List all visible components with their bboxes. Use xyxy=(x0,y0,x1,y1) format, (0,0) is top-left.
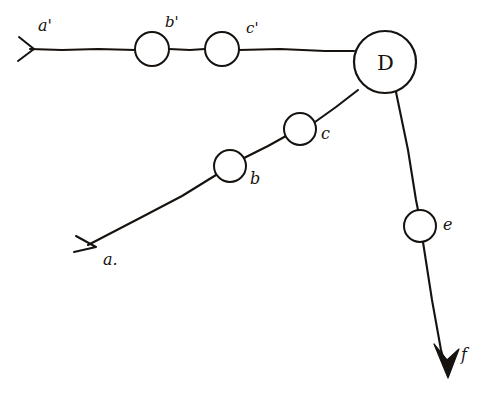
diagram-canvas: a' b' c' D a. b c e f xyxy=(0,0,501,400)
edge-a-to-b xyxy=(88,175,216,245)
node-c[interactable] xyxy=(284,113,316,145)
node-c-prime[interactable] xyxy=(205,32,239,66)
edge-c-to-d xyxy=(315,90,358,122)
edge-a-prime-to-b-prime xyxy=(30,49,135,50)
label-c-prime: c' xyxy=(246,19,259,37)
edge-e-to-f xyxy=(423,242,445,364)
edge-b-prime-to-c-prime xyxy=(169,49,205,50)
label-b-prime: b' xyxy=(165,13,179,31)
edge-c-prime-to-d xyxy=(239,49,354,51)
label-b: b xyxy=(250,169,260,188)
label-a: a. xyxy=(103,250,118,269)
arrowhead-f-icon xyxy=(434,344,459,378)
lower-left-branch xyxy=(74,90,358,252)
top-branch xyxy=(18,32,354,66)
label-f: f xyxy=(460,345,470,364)
label-e: e xyxy=(443,215,452,234)
edge-b-to-c xyxy=(244,136,286,158)
right-branch xyxy=(396,92,459,378)
arrowhead-a-icon xyxy=(74,236,96,252)
node-b[interactable] xyxy=(214,150,246,182)
sketch-drawing: a' b' c' D a. b c e f xyxy=(0,0,501,400)
label-d: D xyxy=(377,51,394,75)
label-a-prime: a' xyxy=(38,16,52,35)
edge-d-to-e xyxy=(396,92,418,210)
node-e[interactable] xyxy=(404,210,436,242)
node-b-prime[interactable] xyxy=(135,32,169,66)
label-c: c xyxy=(321,124,330,143)
